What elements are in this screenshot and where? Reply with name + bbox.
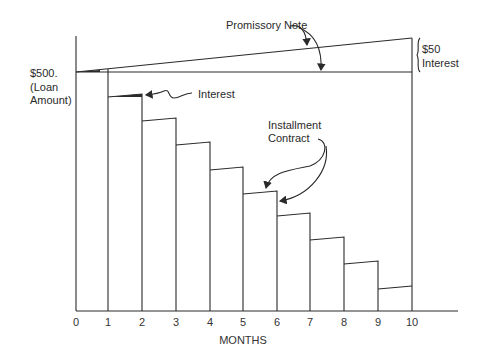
tick-0: 0 [73, 316, 79, 328]
loan-amount-label-1: (Loan [30, 81, 58, 93]
tick-1: 1 [105, 316, 111, 328]
tick-6: 6 [274, 316, 280, 328]
fifty-label: $50 [422, 43, 440, 55]
tick-5: 5 [240, 316, 246, 328]
tick-4: 4 [207, 316, 213, 328]
x-axis-label: MONTHS [219, 334, 267, 346]
bar-month-3 [176, 142, 210, 311]
promissory-note-line [76, 38, 412, 72]
brace-icon [417, 38, 420, 72]
tick-3: 3 [173, 316, 179, 328]
tick-2: 2 [139, 316, 145, 328]
loan-comparison-diagram: Promissory Note $50 Interest $500. (Loan… [0, 0, 486, 361]
bar-month-1 [108, 94, 142, 311]
tick-8: 8 [341, 316, 347, 328]
tick-9: 9 [375, 316, 381, 328]
bar-month-5 [243, 191, 277, 311]
installment-bars [108, 94, 412, 311]
bar-month-4 [210, 167, 243, 311]
bar-month-9 [378, 286, 412, 289]
x-tick-labels: 0 1 2 3 4 5 6 7 8 9 10 [73, 316, 418, 328]
installment-label-2: Contract [268, 132, 310, 144]
loan-amount-label-2: Amount) [30, 94, 72, 106]
tick-10: 10 [406, 316, 418, 328]
tick-7: 7 [307, 316, 313, 328]
interest-arrow [146, 90, 192, 98]
loan-amount-value: $500. [30, 67, 58, 79]
bar-month-2 [142, 118, 176, 311]
bar-month-7 [310, 237, 344, 311]
bar-month-6 [277, 213, 310, 311]
bar-month-8 [344, 261, 378, 311]
fifty-interest-label: Interest [422, 57, 459, 69]
installment-label-1: Installment [268, 119, 321, 131]
promissory-note-label: Promissory Note [226, 19, 307, 31]
interest-label: Interest [198, 88, 235, 100]
installment-arrow-2 [280, 146, 327, 201]
